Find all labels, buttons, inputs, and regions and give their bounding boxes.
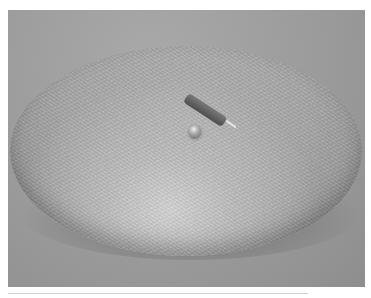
- photo: [8, 10, 365, 287]
- divider-line: [8, 293, 308, 294]
- bead-object: [189, 125, 201, 137]
- dome-texture: [10, 46, 362, 256]
